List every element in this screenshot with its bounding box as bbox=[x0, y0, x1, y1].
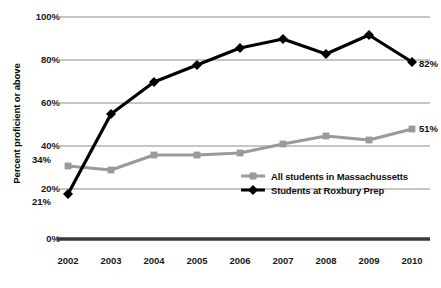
x-tick-2006: 2006 bbox=[218, 255, 262, 266]
x-tick-2010: 2010 bbox=[390, 255, 434, 266]
data-label-gray-2010: 51% bbox=[419, 123, 438, 134]
x-tick-2007: 2007 bbox=[261, 255, 305, 266]
legend-label-all-students: All students in Massachussetts bbox=[271, 171, 408, 182]
legend-item-roxbury-prep: Students at Roxbury Prep bbox=[240, 183, 418, 197]
legend: All students in Massachussetts Students … bbox=[236, 165, 422, 201]
x-tick-2003: 2003 bbox=[89, 255, 133, 266]
legend-swatch-gray-line-icon bbox=[240, 170, 266, 182]
x-tick-2008: 2008 bbox=[304, 255, 348, 266]
x-axis-ticks: 2002 2003 2004 2005 2006 2007 2008 2009 … bbox=[0, 0, 441, 288]
x-tick-2002: 2002 bbox=[46, 255, 90, 266]
data-label-gray-2002: 34% bbox=[32, 154, 51, 165]
line-chart: Percent proficient or above 100% 80% 60%… bbox=[0, 0, 441, 288]
x-tick-2005: 2005 bbox=[175, 255, 219, 266]
x-tick-2009: 2009 bbox=[347, 255, 391, 266]
legend-label-roxbury-prep: Students at Roxbury Prep bbox=[271, 185, 384, 196]
legend-item-all-students: All students in Massachussetts bbox=[240, 169, 418, 183]
data-label-black-2002: 21% bbox=[32, 196, 51, 207]
legend-swatch-black-line-icon bbox=[240, 184, 266, 196]
x-tick-2004: 2004 bbox=[132, 255, 176, 266]
data-label-black-2010: 82% bbox=[419, 58, 438, 69]
